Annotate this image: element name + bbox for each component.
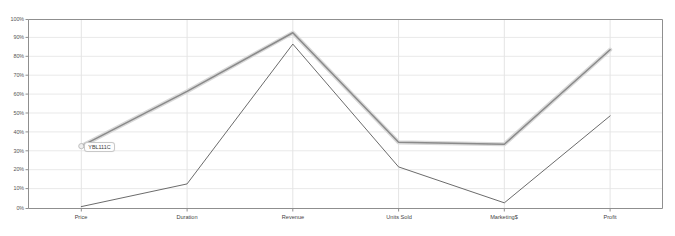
y-tick-label-0: 0%: [0, 205, 24, 211]
line-chart: 100% 90% 80% 70% 60% 50% 40% 30% 20% 10%…: [0, 0, 675, 236]
x-tick-label-marketing: Marketing$: [490, 214, 518, 221]
y-tick-label-80: 80%: [0, 53, 24, 59]
data-point-tooltip[interactable]: YBL111C: [84, 142, 114, 153]
y-tick-label-60: 60%: [0, 91, 24, 97]
y-tick-label-50: 50%: [0, 110, 24, 116]
y-tick-label-30: 30%: [0, 148, 24, 154]
y-tick-label-90: 90%: [0, 34, 24, 40]
plot-background: [29, 20, 663, 209]
x-tick-label-duration: Duration: [176, 214, 197, 221]
y-tick-label-70: 70%: [0, 72, 24, 78]
x-tick-label-revenue: Revenue: [282, 214, 304, 221]
x-tick-label-units-sold: Units Sold: [386, 214, 412, 221]
y-tick-label-10: 10%: [0, 185, 24, 191]
y-tick-label-20: 20%: [0, 166, 24, 172]
plot-canvas: [0, 0, 675, 236]
annotated-point-marker[interactable]: [79, 144, 84, 149]
x-tick-label-price: Price: [75, 214, 88, 221]
y-tick-label-40: 40%: [0, 129, 24, 135]
y-tick-label-100: 100%: [0, 16, 24, 22]
x-tick-label-profit: Profit: [603, 214, 616, 221]
